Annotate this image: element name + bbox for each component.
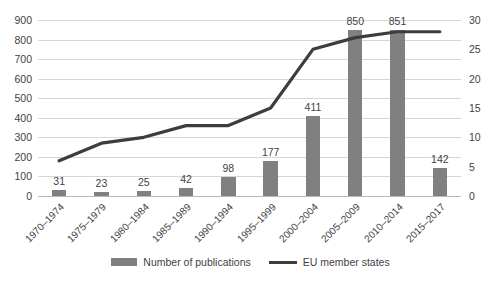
y-axis-left-tick-label: 600 — [2, 74, 32, 85]
bar — [263, 161, 277, 196]
y-axis-left-tick-label: 200 — [2, 152, 32, 163]
y-axis-right-tick-label: 20 — [469, 74, 499, 85]
y-axis-right-tick-label: 10 — [469, 132, 499, 143]
legend-item-publications: Number of publications — [111, 256, 250, 268]
legend-bar-swatch-icon — [111, 258, 137, 266]
y-axis-right-tick-label: 15 — [469, 103, 499, 114]
y-axis-left-tick-label: 800 — [2, 35, 32, 46]
bar — [433, 168, 447, 196]
y-axis-left-tick-label: 400 — [2, 113, 32, 124]
y-axis-right-tick-label: 30 — [469, 15, 499, 26]
bar — [221, 177, 235, 196]
y-axis-left-tick-label: 900 — [2, 15, 32, 26]
bar — [179, 188, 193, 196]
chart-legend: Number of publications EU member states — [0, 256, 501, 268]
y-axis-right-tick-label: 5 — [469, 162, 499, 173]
bar-data-label: 98 — [203, 163, 253, 174]
bar — [306, 116, 320, 196]
bar-data-label: 142 — [415, 154, 465, 165]
chart-container: 0100200300400500600700800900 05101520253… — [0, 0, 501, 282]
bar-data-label: 177 — [246, 147, 296, 158]
bar-data-label: 851 — [373, 16, 423, 27]
legend-item-eu-member-states: EU member states — [269, 256, 390, 268]
legend-label-eu-member-states: EU member states — [303, 256, 390, 268]
bar — [390, 30, 404, 196]
bar-data-label: 42 — [161, 174, 211, 185]
legend-label-publications: Number of publications — [143, 256, 250, 268]
y-axis-left-tick-label: 100 — [2, 171, 32, 182]
y-axis-right-tick-label: 25 — [469, 44, 499, 55]
bar — [52, 190, 66, 196]
bar — [137, 191, 151, 196]
bar — [348, 30, 362, 196]
y-axis-right-tick-label: 0 — [469, 191, 499, 202]
x-axis-category-label: 2015–2017 — [397, 202, 446, 251]
bar — [94, 192, 108, 196]
legend-line-swatch-icon — [269, 261, 297, 264]
y-axis-left-tick-label: 300 — [2, 132, 32, 143]
axis-baseline — [38, 196, 461, 197]
y-axis-left-tick-label: 700 — [2, 54, 32, 65]
y-axis-left-tick-label: 0 — [2, 191, 32, 202]
bar-data-label: 411 — [288, 102, 338, 113]
y-axis-left-tick-label: 500 — [2, 93, 32, 104]
